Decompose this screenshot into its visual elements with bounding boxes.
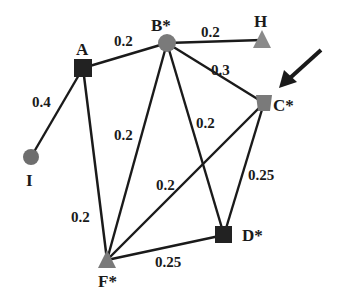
node-i-circle (23, 149, 39, 165)
node-a-square (74, 59, 92, 77)
weight-C-D: 0.25 (248, 167, 274, 183)
edge-A-F (83, 68, 107, 260)
weight-I-A: 0.4 (32, 94, 51, 110)
node-label-d: D* (242, 226, 263, 245)
weight-B-F: 0.2 (114, 127, 133, 143)
node-label-f: F* (98, 272, 117, 291)
node-d-square (215, 226, 232, 243)
nodes (23, 30, 272, 268)
weight-B-D: 0.2 (196, 115, 215, 131)
weight-A-B: 0.2 (114, 33, 133, 49)
weight-A-F: 0.2 (71, 209, 90, 225)
weight-B-H: 0.2 (201, 24, 220, 40)
arrow-icon (279, 50, 321, 88)
node-c-square (256, 95, 272, 111)
node-b-circle (158, 34, 176, 52)
network-graph: A B* H C* I F* D* 0.4 0.2 0.2 0.3 0.2 0.… (0, 0, 340, 304)
edge-B-H (167, 40, 262, 43)
node-label-i: I (26, 171, 33, 190)
weight-B-C: 0.3 (211, 62, 230, 78)
node-label-c: C* (273, 96, 294, 115)
weight-C-F: 0.2 (156, 177, 175, 193)
edge-weights: 0.4 0.2 0.2 0.3 0.2 0.2 0.2 0.2 0.25 0.2… (32, 24, 274, 270)
node-label-h: H (254, 12, 267, 31)
weight-F-D: 0.25 (155, 254, 181, 270)
edge-I-A (31, 68, 83, 157)
edge-B-F (107, 43, 167, 260)
node-label-a: A (76, 40, 89, 59)
node-label-b: B* (151, 16, 171, 35)
